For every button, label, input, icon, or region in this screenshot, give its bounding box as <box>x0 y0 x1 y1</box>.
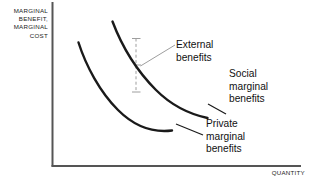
social-marginal-benefits-leader-line <box>208 104 226 114</box>
social-marginal-benefits-curve <box>113 22 208 119</box>
external-benefits-label: External benefits <box>176 39 213 64</box>
private-marginal-benefits-label: Private marginal benefits <box>206 118 245 156</box>
social-marginal-benefits-label: Social marginal benefits <box>229 68 268 106</box>
private-marginal-benefits-leader-line <box>176 124 203 135</box>
external-benefits-measure <box>132 39 175 93</box>
x-axis-label: QUANTITY <box>200 169 305 177</box>
marginal-benefit-quantity-diagram: MARGINAL BENEFIT, MARGINAL COST QUANTITY… <box>0 0 314 182</box>
y-axis-label: MARGINAL BENEFIT, MARGINAL COST <box>6 7 48 40</box>
external-benefits-leader-line <box>141 45 176 66</box>
